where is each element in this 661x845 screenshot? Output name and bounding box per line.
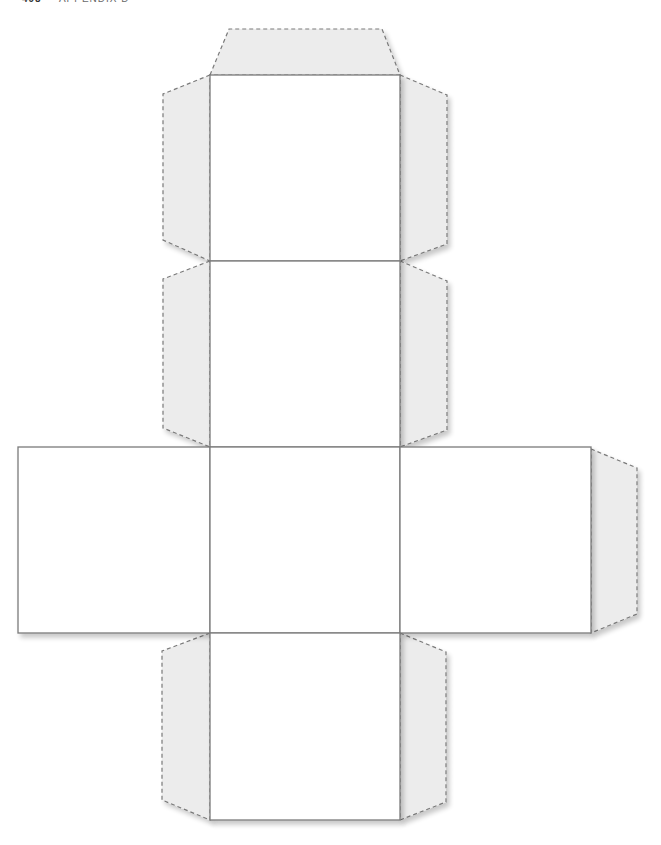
cube-net-template [0,0,661,845]
cube-face-upper-middle [210,261,400,447]
glue-tab-right [591,449,637,633]
glue-tab-top-left [163,75,210,261]
glue-tab-bottom-right [400,633,446,820]
glue-tab-mid-left [163,261,210,447]
glue-tab-bottom-left [162,633,210,820]
glue-tab-mid-right [400,261,447,447]
glue-tab-top-right [400,75,447,261]
cube-face-top [210,75,400,261]
cube-face-left [18,447,210,633]
cube-face-right [400,447,591,633]
cube-face-center [210,447,400,633]
glue-tab-top [210,29,400,75]
cube-face-bottom [210,633,400,820]
